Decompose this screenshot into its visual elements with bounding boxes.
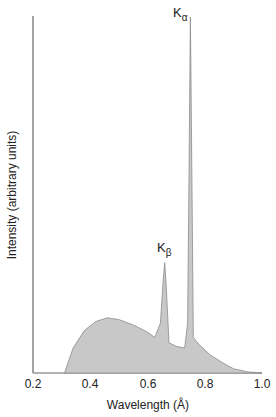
y-axis-label: Intensity (arbitrary units) — [5, 131, 19, 260]
k-beta-label: Kβ — [157, 240, 171, 258]
x-tick-0.2: 0.2 — [25, 377, 42, 391]
k-alpha-sub: α — [182, 12, 188, 23]
x-tick-0.4: 0.4 — [82, 377, 99, 391]
x-axis-label: Wavelength (Å) — [0, 398, 276, 412]
k-alpha-label: Kα — [173, 5, 187, 23]
k-alpha-main: K — [173, 5, 182, 20]
spectrum-area — [65, 17, 263, 373]
k-beta-main: K — [157, 240, 166, 255]
x-tick-0.6: 0.6 — [140, 377, 157, 391]
k-beta-sub: β — [166, 247, 172, 258]
spectrum-chart — [0, 0, 276, 417]
x-tick-1.0: 1.0 — [254, 377, 271, 391]
x-tick-0.8: 0.8 — [197, 377, 214, 391]
